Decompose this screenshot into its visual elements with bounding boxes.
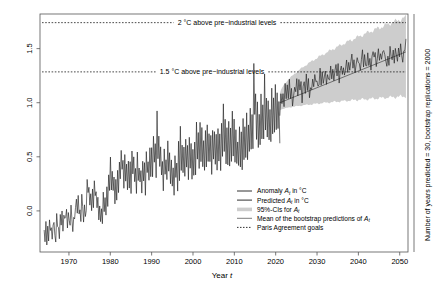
- legend-label: Paris Agreement goals: [257, 224, 324, 232]
- goal-15c-label: 1.5 °C above pre−industrial levels: [160, 68, 265, 76]
- legend-swatch-band: [237, 208, 252, 212]
- climate-anomaly-chart: 2 °C above pre−industrial levels 1.5 °C …: [0, 0, 437, 290]
- goal-2c-label: 2 °C above pre−industrial levels: [178, 19, 277, 27]
- x-tick-label: 1970: [61, 257, 78, 266]
- x-tick-label: 2050: [391, 257, 408, 266]
- x-tick-label: 2040: [350, 257, 367, 266]
- x-tick-label: 1990: [143, 257, 160, 266]
- x-tick-label: 2010: [226, 257, 243, 266]
- right-axis-note: Number of years predicted = 30, bootstra…: [424, 49, 432, 241]
- y-tick-label: 1.0: [25, 97, 34, 107]
- y-tick-label: 0.0: [25, 206, 34, 216]
- x-tick-label: 1980: [102, 257, 119, 266]
- figure-container: 2 °C above pre−industrial levels 1.5 °C …: [0, 0, 437, 290]
- x-tick-label: 2000: [185, 257, 202, 266]
- x-tick-label: 2020: [267, 257, 284, 266]
- x-tick-label: 2030: [309, 257, 326, 266]
- x-axis-title: Year t: [212, 271, 233, 280]
- y-tick-label: 1.5: [25, 43, 34, 53]
- y-tick-label: 0.5: [25, 152, 34, 162]
